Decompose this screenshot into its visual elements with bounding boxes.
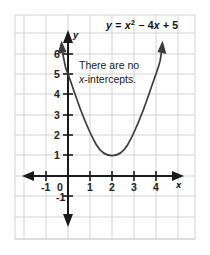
equation-minus: − bbox=[138, 19, 144, 31]
annotation-line-2: x-intercepts. bbox=[79, 74, 136, 85]
x-tick-label-4: 4 bbox=[153, 182, 159, 193]
equation-term1-exponent: 2 bbox=[131, 18, 135, 27]
equation-equals: = bbox=[115, 19, 121, 31]
coordinate-plane-plot bbox=[0, 0, 210, 255]
annotation-intercepts-text: -intercepts. bbox=[84, 73, 136, 85]
y-tick-label-6: 6 bbox=[54, 49, 60, 60]
equation-constant: 5 bbox=[172, 19, 178, 31]
annotation-line-1: There are no bbox=[79, 60, 139, 71]
x-tick-label-neg1: ‑1 bbox=[41, 182, 50, 193]
equation-term2-var: x bbox=[154, 19, 160, 31]
x-tick-label-2: 2 bbox=[109, 182, 115, 193]
x-axis-label: x bbox=[176, 180, 181, 190]
y-tick-label-1: 1 bbox=[54, 150, 60, 161]
y-axis-label: y bbox=[73, 30, 78, 40]
x-tick-label-3: 3 bbox=[131, 182, 137, 193]
equation-plus: + bbox=[163, 19, 169, 31]
y-tick-label-4: 4 bbox=[54, 89, 60, 100]
x-tick-label-1: 1 bbox=[87, 182, 93, 193]
equation-label: y = x2 − 4x + 5 bbox=[106, 20, 178, 31]
y-tick-label-3: 3 bbox=[54, 110, 60, 121]
y-tick-label-neg1: ‑1 bbox=[56, 192, 65, 203]
graph-figure: y = x2 − 4x + 5 There are no x-intercept… bbox=[0, 0, 210, 255]
y-tick-label-2: 2 bbox=[54, 130, 60, 141]
equation-lhs: y bbox=[106, 19, 112, 31]
y-tick-label-5: 5 bbox=[54, 69, 60, 80]
plot-background bbox=[15, 15, 195, 239]
